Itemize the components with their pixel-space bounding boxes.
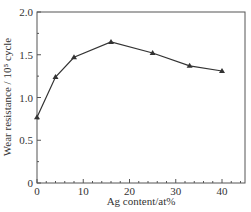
x-tick-label: 0: [34, 185, 40, 197]
plot-area: [37, 12, 245, 183]
y-tick-label: 0: [28, 177, 34, 189]
y-axis: 00.51.01.52.0: [19, 6, 41, 189]
x-axis-title: Ag content/at%: [107, 195, 176, 207]
triangle-marker-icon: [34, 114, 40, 119]
y-tick-label: 1.5: [19, 49, 33, 61]
x-tick-label: 10: [78, 185, 90, 197]
plot-frame: [37, 12, 245, 183]
x-tick-label: 40: [217, 185, 229, 197]
y-tick-label: 2.0: [19, 6, 33, 18]
series-line: [37, 42, 222, 117]
y-axis-title: Wear resistance / 10⁵ cycle: [1, 38, 13, 157]
triangle-marker-icon: [108, 39, 114, 44]
y-tick-label: 0.5: [19, 134, 33, 146]
data-series: [34, 39, 225, 119]
chart: 010203040 00.51.01.52.0 Ag content/at% W…: [0, 0, 251, 212]
y-tick-label: 1.0: [19, 92, 33, 104]
